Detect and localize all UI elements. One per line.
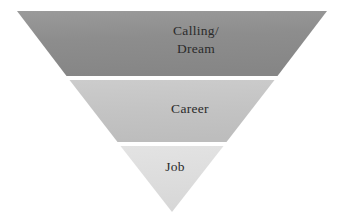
pyramid-segment-top[interactable] [17, 11, 327, 76]
diagram-canvas: Calling/ Dream Career Job [0, 0, 342, 221]
inverted-pyramid-graphic [0, 0, 342, 221]
pyramid-segment-middle[interactable] [70, 80, 275, 142]
pyramid-segment-bottom[interactable] [121, 146, 224, 212]
